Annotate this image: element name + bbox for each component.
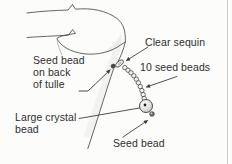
label-large-crystal-bead: Large crystal bead [15, 111, 76, 135]
fabric-left-edge [57, 39, 62, 56]
label-clear-sequin: Clear sequin [145, 37, 205, 49]
beading-diagram: Clear sequin 10 seed beads Seed bead on … [0, 0, 232, 164]
clear-sequin-leader-arrow [127, 47, 149, 61]
label-large-crystal-bead-line1: Large crystal [15, 111, 76, 123]
large-crystal-bead-shape [140, 100, 153, 113]
label-clear-sequin-text: Clear sequin [145, 37, 205, 49]
label-seed-bead-on-back: Seed bead on back of tulle [33, 55, 85, 90]
seed-bead-leader-arrow [123, 121, 148, 138]
fabric-shading [84, 34, 122, 138]
label-seed-bead-text: Seed bead [113, 138, 165, 150]
label-seed-bead-on-back-line2: on back [33, 67, 85, 79]
back-seed-bead-shape [111, 64, 115, 68]
label-seed-bead: Seed bead [113, 138, 165, 150]
fabric-right-edge-lower [88, 69, 114, 149]
large-crystal-bead-leader [79, 108, 140, 119]
label-large-crystal-bead-line2: bead [15, 123, 76, 135]
ten-seed-beads-leader-arrow [147, 77, 178, 88]
fabric-front-rim [27, 30, 125, 55]
label-ten-seed-beads: 10 seed beads [140, 62, 210, 74]
label-ten-seed-beads-text: 10 seed beads [140, 62, 210, 74]
label-seed-bead-on-back-line3: of tulle [33, 79, 85, 91]
bottom-seed-bead-shape [150, 112, 155, 117]
